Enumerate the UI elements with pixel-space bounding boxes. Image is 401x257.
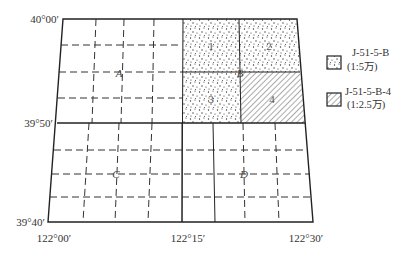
- lat-label-bottom: 39°40′: [16, 216, 45, 228]
- dashed-grid-lower: [50, 123, 311, 222]
- legend-code-2: J-51-5-B-4: [345, 86, 392, 97]
- sub-sheet-label-1: 1: [208, 40, 214, 52]
- lat-label-top: 40°00′: [30, 13, 59, 25]
- lon-label-right: 122°30′: [289, 232, 323, 244]
- sub-sheet-label-2: 2: [266, 40, 272, 52]
- legend-swatch-hatched: [327, 93, 341, 106]
- lat-label-middle: 39°50′: [24, 117, 53, 129]
- quadrant-label-a: A: [115, 67, 123, 79]
- map-sheet-diagram: 40°00′ 39°50′ 39°40′ 122°00′ 122°15′ 122…: [0, 0, 401, 257]
- sub-sheet-label-4: 4: [269, 93, 275, 105]
- legend-scale-1: (1:5万): [347, 61, 378, 73]
- quadrant-label-c: C: [112, 168, 120, 180]
- lon-label-left: 122°00′: [37, 232, 71, 244]
- legend-scale-2: (1:2.5万): [347, 99, 386, 111]
- legend: J-51-5-B (1:5万) J-51-5-B-4 (1:2.5万): [327, 47, 392, 111]
- legend-code-1: J-51-5-B: [352, 47, 389, 58]
- sub-sheet-label-3: 3: [208, 93, 214, 105]
- lon-label-middle: 122°15′: [171, 232, 205, 244]
- quadrant-label-d: D: [239, 168, 248, 180]
- quadrant-label-b: B: [237, 67, 244, 79]
- legend-swatch-dotted: [327, 56, 341, 69]
